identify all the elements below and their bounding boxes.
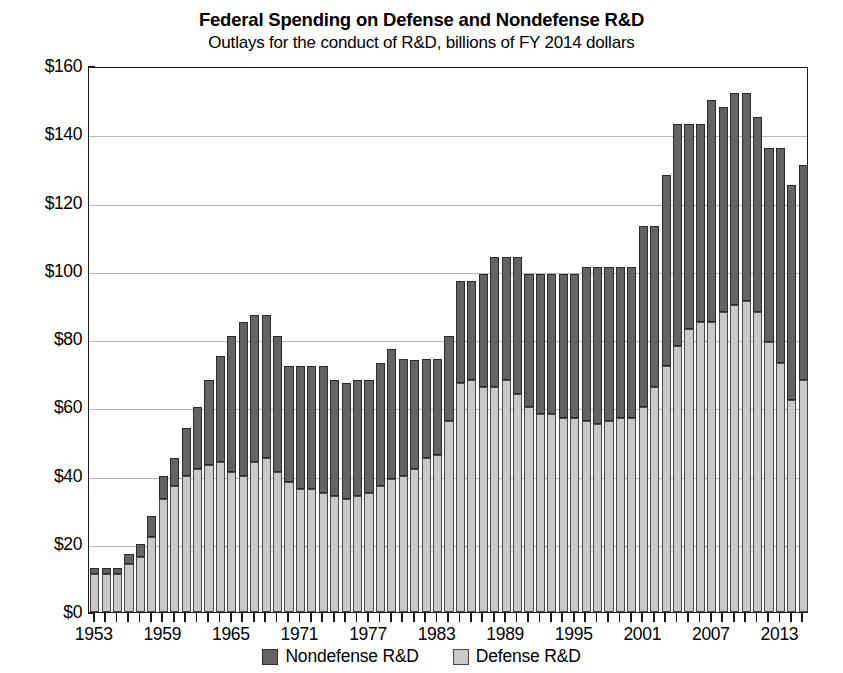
bar-segment-nondefense [113,568,122,575]
bar-column [547,274,556,612]
x-axis-tick [184,613,186,622]
y-axis-label: $40 [12,468,82,486]
bar-segment-nondefense [364,380,373,493]
bar-segment-nondefense [536,274,545,414]
x-axis-tick [527,613,529,622]
x-axis-tick [721,613,723,622]
x-axis-tick [139,613,141,622]
y-axis-label: $0 [12,604,82,622]
x-axis-label: 2013 [747,625,811,643]
bar-column [273,336,282,612]
x-axis-tick [219,613,221,622]
x-axis-label: 2007 [679,625,743,643]
bar-column [216,356,225,612]
bar-segment-defense [742,301,751,612]
bar-segment-nondefense [479,274,488,387]
legend-swatch-defense-icon [453,649,469,665]
bar-segment-defense [227,472,236,612]
bar-column [627,267,636,612]
x-axis-tick [241,613,243,622]
bar-segment-defense [604,421,613,612]
bar-segment-defense [639,407,648,612]
bar-segment-nondefense [719,107,728,312]
x-axis-label: 1977 [336,625,400,643]
bar-segment-nondefense [513,257,522,394]
bar-segment-defense [536,414,545,612]
bar-segment-defense [296,489,305,612]
bar-column [673,124,682,612]
bar-column [136,544,145,612]
bar-segment-defense [764,342,773,612]
y-axis-label: $80 [12,331,82,349]
bar-segment-defense [102,574,111,612]
bar-segment-nondefense [262,315,271,458]
bar-segment-nondefense [296,366,305,489]
bar-column [696,124,705,612]
x-axis-tick [596,613,598,622]
bar-segment-defense [730,305,739,612]
bar-column [650,226,659,612]
chart-title: Federal Spending on Defense and Nondefen… [0,9,843,31]
bar-column [684,124,693,612]
x-axis-tick [356,613,358,622]
x-axis-tick [801,613,803,622]
bar-column [559,274,568,612]
bar-segment-defense [502,380,511,612]
bar-segment-nondefense [616,267,625,417]
bar-segment-nondefense [102,568,111,575]
x-axis-tick [699,613,701,622]
bar-segment-nondefense [696,124,705,322]
bar-segment-nondefense [90,568,99,575]
x-axis-tick [436,613,438,622]
chart-root: Federal Spending on Defense and Nondefen… [0,0,843,673]
bar-segment-defense [650,387,659,612]
bar-column [730,93,739,612]
bar-column [742,93,751,612]
bar-segment-nondefense [216,356,225,462]
x-axis-tick [481,613,483,622]
bar-segment-defense [159,499,168,612]
bar-column [250,315,259,612]
bar-segment-nondefense [399,359,408,475]
bar-segment-defense [387,479,396,612]
bar-column [90,568,99,612]
bar-segment-nondefense [559,274,568,417]
bar-segment-defense [513,394,522,612]
x-axis-tick [93,613,95,622]
y-axis-label: $120 [12,195,82,213]
bar-segment-defense [627,418,636,613]
bar-segment-nondefense [639,226,648,407]
x-axis-tick [516,613,518,622]
bar-segment-nondefense [250,315,259,462]
bar-segment-nondefense [307,366,316,489]
bar-segment-nondefense [490,257,499,387]
bar-column [170,458,179,612]
x-axis-label: 1965 [199,625,263,643]
bar-column [570,274,579,612]
bar-column [353,380,362,612]
bar-column [787,185,796,612]
x-axis-tick [344,613,346,622]
x-axis-tick [127,613,129,622]
x-axis-tick [470,613,472,622]
bar-column [616,267,625,612]
bar-column [490,257,499,612]
bar-column [102,568,111,612]
x-axis-tick [459,613,461,622]
bar-segment-nondefense [604,267,613,421]
bar-segment-defense [410,469,419,612]
bar-segment-nondefense [170,458,179,485]
y-axis-label: $160 [12,58,82,76]
x-axis-tick [173,613,175,622]
x-axis-tick [687,613,689,622]
x-axis-tick [196,613,198,622]
bar-segment-nondefense [776,148,785,363]
x-axis-tick [367,613,369,622]
x-axis-tick [424,613,426,622]
x-axis-tick [790,613,792,622]
x-axis-tick [630,613,632,622]
bar-column [262,315,271,612]
x-axis-tick [756,613,758,622]
bar-column [147,516,156,612]
bar-column [399,359,408,612]
